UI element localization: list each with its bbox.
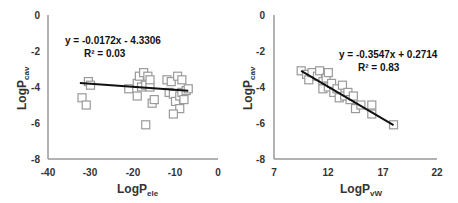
data-point-marker — [169, 110, 177, 118]
x-tick: -40 — [41, 167, 56, 178]
x-tick: -10 — [168, 167, 183, 178]
data-point-marker — [133, 92, 141, 100]
x-tick: 22 — [431, 167, 443, 178]
x-tick: -20 — [126, 167, 141, 178]
trendline-equation: y = -0.3547x + 0.2714 — [339, 49, 438, 60]
data-point-marker — [324, 69, 332, 77]
x-tick: -30 — [83, 167, 98, 178]
x-tick: 12 — [322, 167, 334, 178]
x-axis-title: LogPvW — [340, 182, 382, 198]
r-squared: R² = 0.83 — [358, 62, 400, 73]
y-tick: -4 — [256, 82, 265, 93]
x-axis-title: LogPele — [117, 182, 159, 198]
chart-logp-ele: 0 -2 -4 -6 -8 -40 -30 -20 -10 0 LogPele … — [15, 10, 221, 198]
r-squared: R² = 0.03 — [84, 48, 126, 59]
data-point-marker — [180, 96, 188, 104]
data-point-marker — [82, 101, 90, 109]
y-tick: -2 — [256, 46, 265, 57]
y-tick: -6 — [256, 118, 265, 129]
data-point-marker — [184, 85, 192, 93]
data-point-marker — [368, 101, 376, 109]
data-points — [78, 69, 192, 129]
trendline — [301, 71, 393, 125]
x-tick: 7 — [271, 167, 277, 178]
y-tick: -2 — [31, 46, 40, 57]
chart-logp-vw: 0 -2 -4 -6 -8 7 12 17 22 LogPvW LogPcav … — [241, 10, 443, 198]
y-tick: -4 — [31, 82, 40, 93]
y-tick: -6 — [31, 118, 40, 129]
data-point-marker — [87, 81, 95, 89]
x-tick: 0 — [215, 167, 221, 178]
x-tick: 17 — [377, 167, 389, 178]
y-tick: 0 — [34, 10, 40, 21]
y-axis-title: LogPcav — [15, 66, 31, 110]
data-point-marker — [150, 96, 158, 104]
data-point-marker — [146, 76, 154, 84]
data-point-marker — [178, 76, 186, 84]
y-tick: -8 — [256, 154, 265, 165]
y-tick: 0 — [259, 10, 265, 21]
trendline-equation: y = -0.0172x - 4.3306 — [65, 35, 161, 46]
data-point-marker — [142, 121, 150, 129]
y-tick: -8 — [31, 154, 40, 165]
y-axis-title: LogPcav — [241, 66, 257, 110]
figure: 0 -2 -4 -6 -8 -40 -30 -20 -10 0 LogPele … — [0, 0, 458, 203]
